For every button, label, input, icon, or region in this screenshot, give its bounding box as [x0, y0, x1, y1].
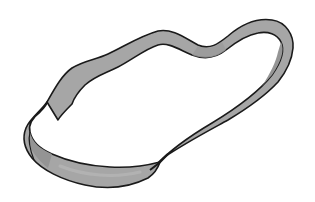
twisted-band-drawing [0, 0, 315, 202]
illustration-canvas: Twisted band (Möbius-strip-like loop) li… [0, 0, 315, 202]
band-upper-segment [47, 20, 293, 166]
band-twist-point [150, 154, 168, 170]
